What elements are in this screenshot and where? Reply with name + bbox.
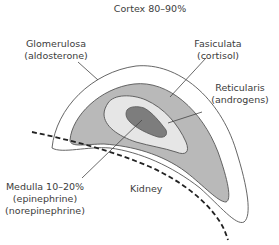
glomerulosa-label: Glomerulosa (aldosterone) xyxy=(22,38,90,62)
medulla-name: Medulla 10–20% xyxy=(4,181,86,193)
medulla-hormone-1: (epinephrine) xyxy=(4,193,86,205)
cortex-title: Cortex 80–90% xyxy=(110,3,190,15)
glomerulosa-hormone: (aldosterone) xyxy=(22,50,90,62)
leader-glomerulosa xyxy=(78,62,98,80)
medulla-hormone-2: (norepinephrine) xyxy=(4,205,86,217)
reticularis-label: Reticularis (androgens) xyxy=(210,82,270,106)
fasiculata-hormone: (cortisol) xyxy=(188,50,248,62)
fasiculata-name: Fasiculata xyxy=(188,38,248,50)
reticularis-name: Reticularis xyxy=(210,82,270,94)
kidney-label: Kidney xyxy=(130,183,162,195)
glomerulosa-name: Glomerulosa xyxy=(22,38,90,50)
fasiculata-label: Fasiculata (cortisol) xyxy=(188,38,248,62)
medulla-label: Medulla 10–20% (epinephrine) (norepineph… xyxy=(4,181,86,217)
reticularis-hormone: (androgens) xyxy=(210,94,270,106)
